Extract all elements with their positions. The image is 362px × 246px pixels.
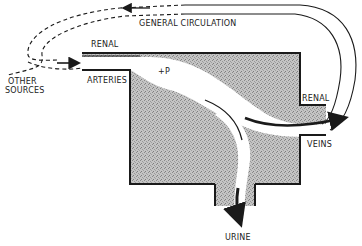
label-other-sources-line1: OTHER: [8, 77, 37, 86]
label-renal-vein: RENAL: [302, 94, 330, 103]
label-general-circulation: GENERAL CIRCULATION: [139, 19, 236, 28]
label-arteries: ARTERIES: [87, 76, 127, 85]
label-pressure: +P: [158, 67, 170, 76]
renal-circulation-diagram: [0, 0, 362, 246]
label-renal-artery: RENAL: [91, 40, 119, 49]
label-other-sources-line2: SOURCES: [5, 86, 45, 95]
label-veins: VEINS: [307, 140, 332, 149]
label-urine: URINE: [225, 233, 251, 242]
